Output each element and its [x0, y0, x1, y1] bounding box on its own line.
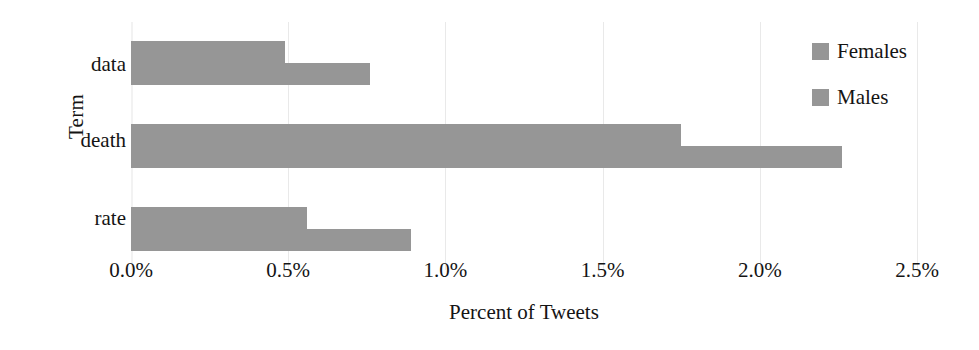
- bar-rate-females[interactable]: [131, 207, 307, 229]
- legend-swatch-females-icon: [812, 43, 829, 60]
- plot-area: [131, 22, 917, 270]
- bar-data-males[interactable]: [131, 63, 370, 85]
- x-axis-tick-1.0%: 1.0%: [424, 258, 468, 283]
- x-axis-tick-0.5%: 0.5%: [266, 258, 310, 283]
- horizontal-bar-chart: Term data death rate 0.0%0.5%1.0%1.5%2.0…: [0, 0, 979, 350]
- y-axis-tick-label-death: death: [18, 128, 126, 153]
- y-axis-tick-labels: data death rate: [8, 0, 126, 270]
- legend-label-females: Females: [837, 41, 907, 62]
- x-axis-tick-1.5%: 1.5%: [581, 258, 625, 283]
- x-axis-tick-2.0%: 2.0%: [738, 258, 782, 283]
- x-axis-tick-2.5%: 2.5%: [895, 258, 939, 283]
- legend: Females Males: [812, 28, 972, 120]
- legend-item-males[interactable]: Males: [812, 74, 972, 120]
- bar-data-females[interactable]: [131, 41, 285, 63]
- bar-rate-males[interactable]: [131, 229, 411, 251]
- legend-swatch-males-icon: [812, 89, 829, 106]
- y-axis-tick-label-rate: rate: [18, 206, 126, 231]
- x-axis-title: Percent of Tweets: [131, 300, 917, 325]
- legend-label-males: Males: [837, 87, 888, 108]
- x-axis-tick-0.0%: 0.0%: [109, 258, 153, 283]
- bar-death-males[interactable]: [131, 146, 842, 168]
- bar-death-females[interactable]: [131, 124, 681, 146]
- y-axis-tick-label-data: data: [18, 52, 126, 77]
- legend-item-females[interactable]: Females: [812, 28, 972, 74]
